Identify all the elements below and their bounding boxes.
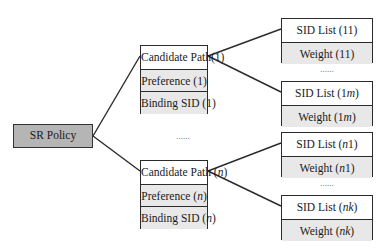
sr-policy-node: SR Policy xyxy=(13,124,93,148)
edge-policy-to-cp1 xyxy=(93,56,140,136)
candidate-path-label: Candidate Path(1) xyxy=(141,46,207,69)
edge-policy-to-cpn xyxy=(93,136,140,171)
preference-label: Preference (1) xyxy=(141,69,207,92)
sid-list-label: SID List (11) xyxy=(282,19,372,42)
sid-list-11-node: SID List (11) Weight (11) xyxy=(281,18,373,63)
weight-label: Weight (n1) xyxy=(282,156,372,179)
binding-sid-label: Binding SID (n) xyxy=(141,206,207,229)
weight-label: Weight (1m) xyxy=(282,105,372,128)
candidate-path-ellipsis: ...... xyxy=(163,131,203,141)
sid-list-label: SID List (1m) xyxy=(282,82,372,105)
sid-list-label: SID List (n1) xyxy=(282,133,372,156)
sid-list-nk-node: SID List (nk) Weight (nk) xyxy=(281,195,373,240)
sid-list-1m-node: SID List (1m) Weight (1m) xyxy=(281,81,373,126)
binding-sid-label: Binding SID (1) xyxy=(141,91,207,114)
sid-list-ellipsis-n: ...... xyxy=(307,178,347,188)
preference-label: Preference (n) xyxy=(141,184,207,207)
sid-list-n1-node: SID List (n1) Weight (n1) xyxy=(281,132,373,177)
weight-label: Weight (11) xyxy=(282,42,372,65)
weight-label: Weight (nk) xyxy=(282,219,372,242)
sid-list-ellipsis-1: ...... xyxy=(307,64,347,74)
candidate-path-1-node: Candidate Path(1) Preference (1) Binding… xyxy=(140,45,208,114)
candidate-path-n-node: Candidate Path (n) Preference (n) Bindin… xyxy=(140,160,208,229)
sid-list-label: SID List (nk) xyxy=(282,196,372,219)
candidate-path-label: Candidate Path (n) xyxy=(141,161,207,184)
